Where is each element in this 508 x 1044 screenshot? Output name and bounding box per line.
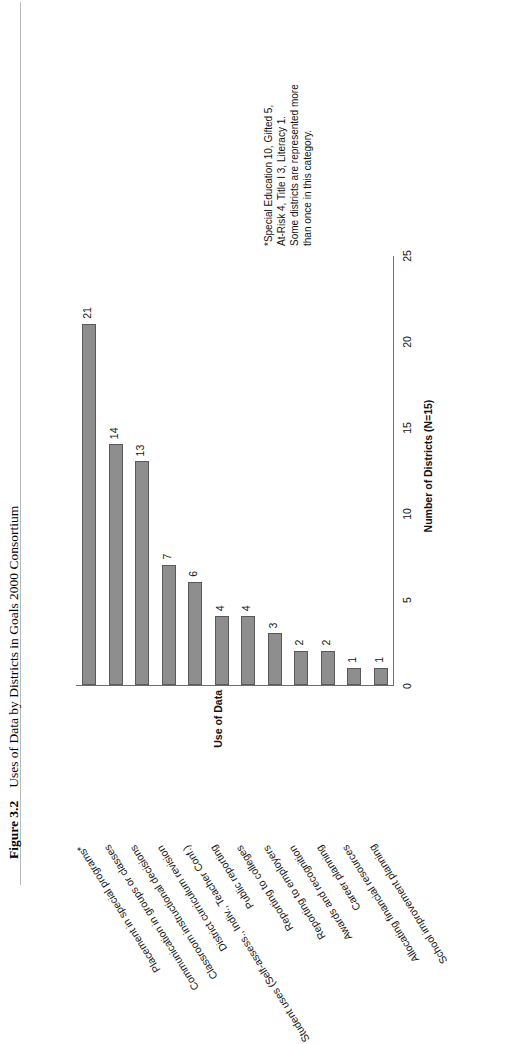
footnote-line-1: *Special Education 10, Gifted 5, xyxy=(262,6,275,246)
bar-row: 6 xyxy=(188,255,202,685)
bar-row: 21 xyxy=(82,255,96,685)
bar xyxy=(135,461,149,685)
bar xyxy=(268,633,282,685)
bar-value-label: 1 xyxy=(372,656,386,662)
bar-row: 13 xyxy=(135,255,149,685)
footnote-line-3: Some districts are represented more xyxy=(288,6,301,246)
bar-value-label: 4 xyxy=(213,605,227,611)
bar-value-label: 2 xyxy=(292,639,306,645)
value-axis-tick: 10 xyxy=(401,508,413,520)
bar-value-label: 3 xyxy=(266,622,280,628)
bar-row: 2 xyxy=(294,255,308,685)
value-axis-title: Number of Districts (N=15) xyxy=(422,346,434,586)
bar xyxy=(82,323,96,684)
bar-value-label: 21 xyxy=(80,307,94,319)
bar-row: 2 xyxy=(321,255,335,685)
bar xyxy=(321,650,335,684)
bar-value-label: 7 xyxy=(160,553,174,559)
bar xyxy=(109,444,123,685)
bar-row: 14 xyxy=(109,255,123,685)
bar-value-label: 1 xyxy=(345,656,359,662)
bar-row: 1 xyxy=(347,255,361,685)
bar xyxy=(374,667,388,684)
bar-row: 7 xyxy=(162,255,176,685)
footnote-line-2: At-Risk 4, Title I 3, Literacy 1. xyxy=(275,6,288,246)
figure-caption-title: Uses of Data by Districts in Goals 2000 … xyxy=(6,506,21,801)
figure-caption: Figure 3.2Uses of Data by Districts in G… xyxy=(3,39,25,859)
chart-rotor: Use of Data Number of Districts (N=15) 2… xyxy=(66,2,498,842)
bar-row: 1 xyxy=(374,255,388,685)
bar xyxy=(162,564,176,684)
figure-caption-number: Figure 3.2 xyxy=(6,801,21,859)
value-axis-tick: 20 xyxy=(401,336,413,348)
bar-value-label: 14 xyxy=(107,427,121,439)
value-axis-tick: 15 xyxy=(401,422,413,434)
bar-value-label: 2 xyxy=(319,639,333,645)
value-axis-tick: 5 xyxy=(401,597,413,603)
bar-row: 4 xyxy=(241,255,255,685)
bar-chart: Use of Data Number of Districts (N=15) 2… xyxy=(66,2,498,842)
figure-footnote: *Special Education 10, Gifted 5, At-Risk… xyxy=(262,6,314,246)
bar xyxy=(188,581,202,684)
plot-area: 211413764432211 0510152025 xyxy=(76,256,394,686)
footnote-line-4: than once in this category. xyxy=(301,6,314,246)
value-axis-tick: 0 xyxy=(401,683,413,689)
bar xyxy=(215,616,229,685)
bar-value-label: 13 xyxy=(133,444,147,456)
bar xyxy=(294,650,308,684)
bar xyxy=(241,616,255,685)
bar-row: 3 xyxy=(268,255,282,685)
bar xyxy=(347,667,361,684)
bar-value-label: 4 xyxy=(239,605,253,611)
value-axis-tick: 25 xyxy=(401,250,413,262)
value-axis-line xyxy=(393,256,394,686)
category-axis-labels: Placement in special programs*Communicat… xyxy=(66,686,396,842)
bar-row: 4 xyxy=(215,255,229,685)
bar-value-label: 6 xyxy=(186,570,200,576)
